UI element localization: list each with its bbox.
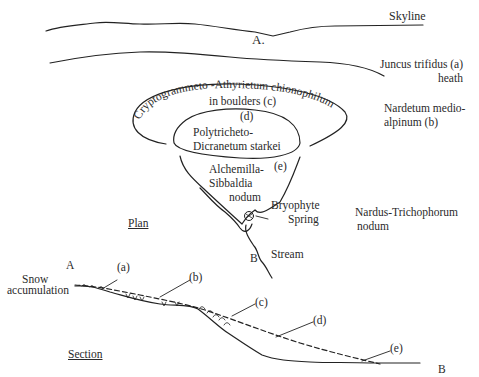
section-marker-d: (d) (313, 314, 326, 327)
section-marker-b: (b) (189, 271, 202, 284)
label-alchemilla-3: nodum (229, 191, 261, 204)
section-title: Section (68, 348, 103, 361)
label-crypto-inner: in boulders (c) (209, 95, 276, 108)
plan-title: Plan (128, 217, 148, 230)
label-polytricheto-2: Dicranetum starkei (193, 140, 281, 153)
label-nardus-1: Nardus-Trichophorum (355, 206, 458, 219)
snowbed-vegetation-diagram: A. Skyline Juncus trifidus (a) heath Nar… (0, 0, 479, 377)
label-alchemilla-2: Sibbaldia (209, 177, 252, 190)
plan-point-b: B (250, 252, 258, 265)
section-marker-a: (a) (117, 261, 130, 274)
label-polytricheto-1: Polytricheto- (193, 126, 253, 139)
label-snow-2: accumulation (7, 284, 69, 297)
section-point-a: A (66, 259, 74, 272)
label-nardus-2: nodum (357, 220, 389, 233)
label-bryophyte-2: Spring (288, 213, 319, 226)
label-bryophyte-1: Bryophyte (271, 199, 320, 212)
label-stream: Stream (271, 248, 304, 261)
label-alchemilla-1: Alchemilla- (209, 163, 264, 176)
section-marker-c: (c) (255, 296, 268, 309)
marker-d-plan: (d) (240, 110, 253, 123)
marker-e-plan: (e) (274, 160, 287, 173)
section-point-b: B (438, 363, 446, 376)
section-marker-e: (e) (390, 342, 403, 355)
